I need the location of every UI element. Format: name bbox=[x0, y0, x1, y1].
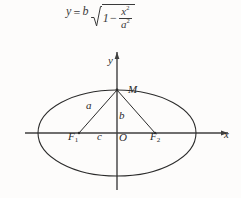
point-label-F1-subscript: 1 bbox=[75, 136, 79, 144]
segment-label-a: a bbox=[86, 100, 92, 111]
origin-label: O bbox=[119, 132, 127, 143]
point-label-F2-subscript: 2 bbox=[157, 136, 161, 144]
point-label-F2: F2 bbox=[150, 131, 160, 142]
y-axis bbox=[115, 52, 120, 190]
y-axis-label: y bbox=[108, 55, 113, 66]
segment-label-c: c bbox=[97, 131, 102, 142]
figure-canvas: y = b 1 − x2 a2 bbox=[0, 0, 241, 198]
segment-label-b: b bbox=[119, 110, 125, 121]
segment-a-left-focal-radius bbox=[79, 90, 117, 133]
x-axis-label: x bbox=[224, 129, 229, 140]
y-axis-arrow-icon bbox=[115, 52, 120, 59]
ellipse-diagram bbox=[0, 0, 241, 198]
point-label-F2-base: F bbox=[150, 130, 157, 142]
point-label-M: M bbox=[128, 84, 137, 95]
point-label-F1: F1 bbox=[68, 131, 78, 142]
point-label-F1-base: F bbox=[68, 130, 75, 142]
point-M-marker bbox=[116, 89, 119, 92]
